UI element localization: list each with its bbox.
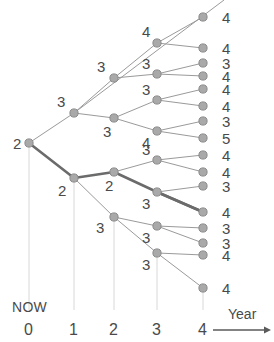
tree-edge xyxy=(157,253,203,288)
tree-node-value-label: 3 xyxy=(142,257,150,272)
tree-node[interactable] xyxy=(153,70,161,78)
tree-leaf-value-label: 4 xyxy=(222,205,230,220)
tree-node[interactable] xyxy=(153,188,161,196)
tree-node-value-label: 3 xyxy=(97,59,105,74)
tree-edge xyxy=(157,160,203,172)
axis-tick-label: 2 xyxy=(109,322,118,338)
tree-leaf-node[interactable] xyxy=(199,44,207,52)
tree-edge xyxy=(157,186,203,192)
tree-leaf-value-label: 3 xyxy=(222,179,230,194)
tree-edge-highlighted xyxy=(29,143,74,178)
tree-edges xyxy=(29,17,203,288)
tree-node-value-label: 2 xyxy=(13,136,21,151)
tree-node[interactable] xyxy=(110,168,118,176)
tree-node[interactable] xyxy=(153,96,161,104)
tree-node[interactable] xyxy=(153,127,161,135)
tree-edge xyxy=(157,226,203,243)
tree-leaf-value-label: 4 xyxy=(222,41,230,56)
tree-node-value-label: 3 xyxy=(142,56,150,71)
tree-leaf-node[interactable] xyxy=(199,208,207,216)
tree-leaf-node[interactable] xyxy=(199,59,207,67)
tree-edge xyxy=(114,118,157,131)
tree-leaf-value-label: 4 xyxy=(222,99,230,114)
tree-edge xyxy=(157,100,203,106)
tree-node[interactable] xyxy=(70,174,78,182)
tree-node-value-label: 2 xyxy=(58,183,66,198)
tree-leaf-node[interactable] xyxy=(199,284,207,292)
tree-edge-highlighted xyxy=(157,192,203,212)
tree-node-value-label: 3 xyxy=(142,196,150,211)
tree-edge xyxy=(157,131,203,138)
axis-arrow xyxy=(213,327,271,334)
tree-node[interactable] xyxy=(70,109,78,117)
tree-node-value-label: 3 xyxy=(57,94,65,109)
tree-leaf-node[interactable] xyxy=(199,117,207,125)
tree-node[interactable] xyxy=(153,156,161,164)
tree-edge xyxy=(157,74,203,76)
axis-tick-label: 4 xyxy=(198,322,207,338)
tree-node[interactable] xyxy=(153,249,161,257)
axis-title-year: Year xyxy=(228,307,256,321)
tree-leaf-value-label: 4 xyxy=(222,10,230,25)
tree-node-value-label: 2 xyxy=(105,178,113,193)
axis-now-label: NOW xyxy=(12,300,47,314)
tree-graphics xyxy=(0,0,274,342)
tree-leaf-value-label: 4 xyxy=(222,82,230,97)
tree-leaf-value-label: 5 xyxy=(222,131,230,146)
axis-tick-label: 1 xyxy=(69,322,78,338)
tree-leaf-value-label: 4 xyxy=(222,248,230,263)
tree-node[interactable] xyxy=(153,39,161,47)
tree-leaf-node[interactable] xyxy=(199,102,207,110)
tree-node-value-label: 3 xyxy=(103,124,111,139)
tree-leaf-node[interactable] xyxy=(199,13,207,21)
tree-edge xyxy=(157,121,203,131)
tree-leaf-node[interactable] xyxy=(199,168,207,176)
tree-node[interactable] xyxy=(25,139,33,147)
tree-leaf-node[interactable] xyxy=(199,239,207,247)
tree-edge xyxy=(157,155,203,160)
tree-edge xyxy=(74,113,114,118)
tree-edge xyxy=(114,217,157,226)
tree-edge xyxy=(74,78,114,113)
tree-leaf-value-label: 4 xyxy=(222,148,230,163)
tree-edge-highlighted xyxy=(114,172,157,192)
tree-leaf-node[interactable] xyxy=(199,85,207,93)
tree-leaf-node[interactable] xyxy=(199,251,207,259)
tree-node-value-label: 3 xyxy=(142,230,150,245)
tree-edge xyxy=(157,253,203,255)
tree-edge xyxy=(157,63,203,74)
scenario-tree-figure: 2323323433433334434443544343344 NOW Year… xyxy=(0,0,274,342)
tree-node[interactable] xyxy=(153,222,161,230)
tree-node[interactable] xyxy=(110,74,118,82)
year-axis-arrow-head xyxy=(264,327,271,334)
tree-leaf-node[interactable] xyxy=(199,151,207,159)
axis-tick-label: 0 xyxy=(24,322,33,338)
tree-edge xyxy=(157,226,203,228)
tree-node[interactable] xyxy=(110,213,118,221)
tree-leaf-value-label: 3 xyxy=(222,221,230,236)
axis-tick-label: 3 xyxy=(152,322,161,338)
tree-leaf-node[interactable] xyxy=(199,182,207,190)
tree-node-value-label: 3 xyxy=(142,82,150,97)
tree-edge xyxy=(114,100,157,118)
tree-edge xyxy=(29,113,74,143)
tree-node[interactable] xyxy=(110,114,118,122)
tree-node-value-label: 3 xyxy=(96,220,104,235)
tree-edge xyxy=(114,43,157,78)
tree-leaf-value-label: 3 xyxy=(222,114,230,129)
tree-leaf-node[interactable] xyxy=(199,72,207,80)
tree-leaf-node[interactable] xyxy=(199,224,207,232)
tree-leaf-node[interactable] xyxy=(199,134,207,142)
tree-edge xyxy=(157,89,203,100)
tree-node-value-label: 3 xyxy=(142,142,150,157)
tree-nodes xyxy=(25,13,207,292)
tree-edge xyxy=(114,160,157,172)
tree-leaf-value-label: 4 xyxy=(222,281,230,296)
tree-node-value-label: 4 xyxy=(142,24,150,39)
tree-edge xyxy=(114,217,157,253)
